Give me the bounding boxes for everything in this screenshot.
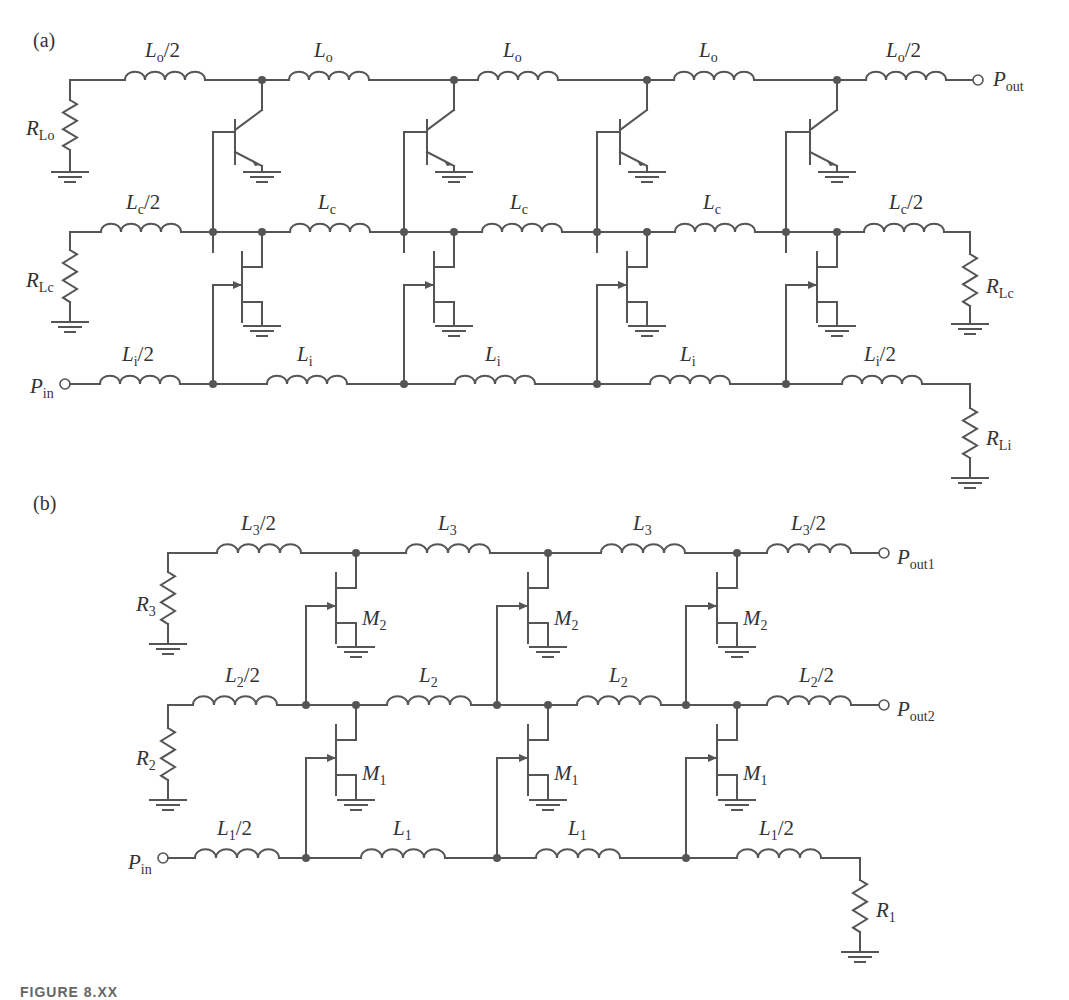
inductor-label-l2-3-suffix: /2 [818, 663, 834, 687]
resistor-icon [63, 250, 77, 302]
inductor-label-l2-0-suffix: /2 [244, 663, 260, 687]
inductor-label-lo-2: Lo [503, 40, 522, 65]
inductor-label-lo-3: Lo [699, 40, 718, 65]
inductor-label-l3-3-suffix: /2 [810, 511, 826, 535]
inductor-label-li-3-subscript: i [692, 354, 696, 369]
wire [213, 285, 242, 384]
arrow-icon [826, 159, 835, 166]
inductor-icon [650, 376, 730, 384]
inductor-label-lc-2-subscript: c [522, 202, 528, 217]
junction-dot [682, 701, 690, 709]
port-label-pout1-symbol: P [897, 545, 910, 569]
inductor-label-lo-4-suffix: /2 [905, 38, 921, 62]
inductor-label-lo-4-subscript: o [898, 50, 905, 65]
resistor-label-r2: R2 [136, 748, 156, 773]
port-label-pin-symbol: P [30, 374, 43, 398]
arrow-icon [519, 602, 528, 610]
junction-dot [782, 380, 790, 388]
inductor-icon [864, 224, 944, 232]
resistor-label-r3-subscript: 3 [149, 604, 156, 619]
arrow-icon [251, 159, 260, 166]
arrow-icon [708, 754, 717, 762]
inductor-label-l2-3-symbol: L [799, 663, 811, 687]
inductor-label-lc-0: Lc/2 [126, 192, 160, 217]
inductor-label-lc-4: Lc/2 [889, 192, 923, 217]
junction-dot [493, 701, 501, 709]
inductor-label-lo-0: Lo/2 [145, 40, 180, 65]
junction-dot [493, 854, 501, 862]
figure-caption: FIGURE 8.XX [20, 984, 118, 1000]
device-label-m1-0-subscript: 1 [380, 773, 387, 788]
inductor-label-l1-3-suffix: /2 [778, 816, 794, 840]
wire [235, 110, 262, 130]
wire [427, 110, 454, 130]
resistor-icon [853, 880, 867, 932]
inductor-label-l1-1-subscript: 1 [405, 828, 412, 843]
inductor-label-l3-2: L3 [633, 513, 652, 538]
resistor-label-rli-subscript: Li [999, 438, 1011, 453]
inductor-icon [767, 696, 851, 705]
port-label-pout1-subscript: out1 [910, 557, 935, 572]
inductor-label-li-2-subscript: i [497, 354, 501, 369]
port-terminal-icon [879, 548, 889, 558]
inductor-icon [289, 72, 369, 80]
device-label-m2-1-symbol: M [554, 606, 572, 630]
port-label-pin: Pin [30, 376, 54, 401]
inductor-icon [217, 544, 301, 553]
resistor-label-r1-subscript: 1 [889, 910, 896, 925]
inductor-label-l2-3: L2/2 [799, 665, 834, 690]
inductor-icon [577, 696, 661, 705]
inductor-label-l2-2-symbol: L [609, 663, 621, 687]
inductor-icon [195, 849, 279, 858]
device-label-m2-2-subscript: 2 [761, 618, 768, 633]
device-label-m1-0: M1 [362, 763, 387, 788]
wire [686, 606, 717, 705]
inductor-label-li-4: Li/2 [864, 344, 896, 369]
junction-dot [209, 380, 217, 388]
inductor-icon [842, 376, 922, 384]
inductor-label-lc-1: Lc [318, 192, 336, 217]
inductor-label-l2-1-subscript: 2 [431, 675, 438, 690]
inductor-label-lo-1-subscript: o [326, 50, 333, 65]
inductor-label-l2-0-symbol: L [225, 663, 237, 687]
device-label-m1-1-symbol: M [554, 761, 572, 785]
resistor-label-rlo-symbol: R [26, 116, 39, 140]
inductor-label-l1-0-suffix: /2 [236, 816, 252, 840]
resistor-label-rlo-subscript: Lo [39, 128, 55, 143]
wire [786, 285, 817, 384]
inductor-icon [267, 376, 347, 384]
inductor-label-lc-4-suffix: /2 [907, 190, 923, 214]
inductor-label-lo-1: Lo [314, 40, 333, 65]
part-a-label: (a) [33, 30, 55, 50]
arrow-icon [327, 602, 336, 610]
junction-dot [782, 228, 790, 236]
port-label-pout-subscript: out [1006, 79, 1024, 94]
port-label-pin-subscript: in [43, 386, 54, 401]
arrow-icon [327, 754, 336, 762]
junction-dot [400, 228, 408, 236]
resistor-label-r1-symbol: R [876, 898, 889, 922]
inductor-label-lc-4-symbol: L [889, 190, 901, 214]
arrow-icon [808, 281, 817, 289]
port-label-pout-symbol: P [993, 67, 1006, 91]
inductor-label-lo-4: Lo/2 [886, 40, 921, 65]
inductor-icon [478, 72, 558, 80]
port-label-pin-b: Pin [128, 852, 152, 877]
resistor-label-rlc-left-symbol: R [26, 268, 39, 292]
inductor-label-li-4-symbol: L [864, 342, 876, 366]
device-label-m1-2: M1 [743, 763, 768, 788]
resistor-label-r3: R3 [136, 594, 156, 619]
inductor-label-li-0-suffix: /2 [138, 342, 154, 366]
junction-dot [593, 228, 601, 236]
inductor-icon [387, 696, 471, 705]
inductor-icon [193, 696, 277, 705]
inductor-label-l1-3: L1/2 [759, 818, 794, 843]
inductor-icon [866, 72, 946, 80]
inductor-label-l1-3-symbol: L [759, 816, 771, 840]
inductor-label-lc-0-symbol: L [126, 190, 138, 214]
inductor-label-l3-0-symbol: L [241, 511, 253, 535]
arrow-icon [519, 754, 528, 762]
device-label-m1-2-subscript: 1 [761, 773, 768, 788]
inductor-icon [674, 72, 754, 80]
